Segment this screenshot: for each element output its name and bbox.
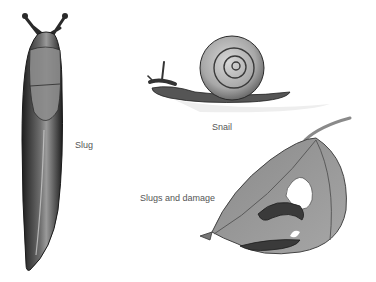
snail-label: Snail (212, 122, 232, 132)
leaf-damage-illustration (200, 118, 350, 254)
illustration-canvas (0, 0, 376, 282)
slugs-damage-label: Slugs and damage (140, 193, 215, 203)
snail-illustration (148, 36, 330, 112)
slug-label: Slug (75, 140, 93, 150)
slug-illustration (22, 13, 68, 270)
